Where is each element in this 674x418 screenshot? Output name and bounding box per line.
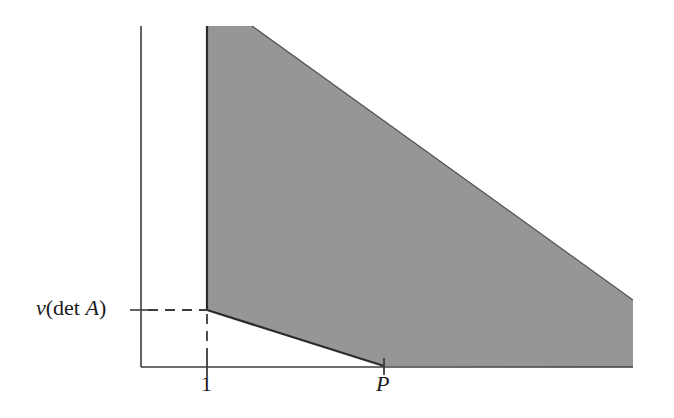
shaded-feasible-region	[207, 26, 633, 367]
label-part-det-operator: det	[53, 295, 80, 320]
x-tick-label-one: 1	[201, 373, 212, 395]
x-tick-label-p: P	[376, 373, 389, 395]
y-axis-value-label: v(det A)	[36, 297, 106, 319]
label-part-variable-v: v	[36, 295, 46, 320]
plot-canvas	[0, 0, 674, 418]
figure-container: v(det A) 1 P	[0, 0, 674, 418]
label-part-close-paren: )	[99, 295, 106, 320]
label-part-open-paren: (	[46, 295, 53, 320]
label-part-matrix-a: A	[85, 295, 98, 320]
